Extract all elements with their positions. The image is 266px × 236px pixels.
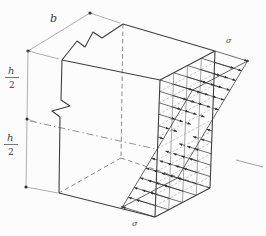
stress-label-top: σ [226, 36, 232, 45]
stress-arrowhead [221, 98, 224, 100]
envelope-tip-bottom-dot [121, 206, 124, 209]
stress-arrowhead [146, 168, 149, 170]
stress-arrowhead [187, 122, 190, 124]
hidden-edge-back-left [121, 24, 123, 158]
stress-arrowhead [193, 112, 196, 114]
hidden-edge-bottom-front [59, 158, 121, 193]
half-height-upper-numerator: h [8, 65, 14, 76]
stress-arrowhead [175, 165, 178, 167]
stress-arrowhead [148, 180, 151, 182]
half-height-lower-label: h 2 [4, 132, 18, 157]
figure-beam-bending-stress: b h 2 h 2 σ σ [0, 0, 266, 236]
stress-arrowhead [179, 120, 182, 122]
stress-arrowhead [140, 177, 143, 179]
stress-arrowhead [152, 158, 155, 160]
dim-h-dot-bottom [24, 185, 27, 188]
diagram-line [123, 207, 155, 217]
top-back-edge [123, 24, 215, 51]
dimension-b [28, 13, 120, 59]
top-front-edge [62, 60, 160, 80]
break-line-top [62, 24, 123, 60]
diagram-line [196, 58, 201, 195]
stress-arrowhead [160, 160, 163, 162]
dim-h-ext-bottom [26, 187, 58, 193]
axis-extension-right [236, 160, 263, 167]
diagram-line [150, 192, 182, 202]
neutral-axis [30, 121, 156, 149]
stress-arrowhead [238, 69, 241, 71]
half-height-lower-denominator: 2 [8, 147, 14, 157]
stress-arrowhead [201, 139, 204, 141]
diagram-line [215, 51, 247, 61]
dim-b-dot-top [88, 11, 91, 14]
diagram-line [169, 73, 174, 210]
stress-arrowhead [232, 78, 235, 80]
stress-arrowhead [201, 115, 204, 117]
stress-arrowhead [128, 197, 131, 199]
stress-arrowhead [165, 151, 168, 153]
stress-arrowhead [187, 146, 190, 148]
stress-arrowhead [193, 136, 196, 138]
stress-arrowhead [189, 158, 192, 160]
stress-arrowhead [134, 187, 137, 189]
envelope-tip-top-dot [246, 60, 249, 63]
diagram-canvas: b h 2 h 2 σ σ [0, 0, 266, 236]
stress-arrowhead [215, 108, 218, 110]
bottom-front-edge [59, 193, 155, 217]
envelope-front-slant [123, 90, 193, 207]
stress-arrowhead [207, 129, 210, 131]
dim-h-dot-mid [26, 118, 29, 121]
stress-label-bottom: σ [132, 219, 138, 228]
stress-arrowhead [174, 129, 177, 131]
dim-b-line [28, 13, 90, 51]
half-height-upper-denominator: 2 [9, 80, 15, 90]
stress-arrowhead [160, 137, 163, 139]
half-height-upper-label: h 2 [5, 65, 19, 90]
dimension-h [26, 51, 58, 193]
stress-arrowhead [178, 178, 181, 180]
stress-arrowhead [179, 143, 182, 145]
diagram-line [183, 66, 188, 203]
stress-arrowhead [227, 88, 230, 90]
stress-arrowhead [142, 190, 145, 192]
dim-b-ext-top [90, 13, 120, 23]
dim-b-ext-bottom [28, 51, 59, 59]
stress-arrowhead [207, 105, 210, 107]
width-label: b [50, 12, 57, 25]
stress-arrowhead [162, 173, 165, 175]
stress-arrowhead [173, 153, 176, 155]
hidden-edges [59, 24, 210, 193]
stress-arrowhead [166, 127, 169, 129]
half-height-lower-numerator: h [7, 132, 13, 143]
